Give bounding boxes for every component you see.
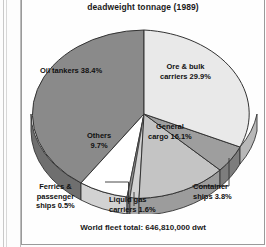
scan-page-edge-line: [3, 0, 4, 247]
slice-label-text: Oil tankers 38.4%: [40, 66, 102, 75]
slice-label-general-cargo: General cargo 16.1%: [148, 122, 192, 141]
slice-label-text: Liquid gas: [109, 195, 156, 205]
slice-label-text: General: [148, 122, 192, 132]
chart-title: deadweight tonnage (1989): [21, 2, 265, 12]
slice-label-text: carriers 29.9%: [160, 72, 211, 82]
slice-label-text: cargo 16.1%: [148, 132, 192, 142]
slice-label-text: ships 3.8%: [193, 192, 232, 202]
slice-label-container-ships: Container ships 3.8%: [193, 182, 232, 201]
slice-label-text: Ore & bulk: [160, 62, 211, 72]
slice-label-text: Ferries &: [36, 182, 75, 192]
slice-label-text: ships 0.5%: [36, 201, 75, 211]
slice-label-oil-tankers: Oil tankers 38.4%: [40, 66, 102, 76]
slice-label-ferries-passenger-ships: Ferries & passenger ships 0.5%: [36, 182, 75, 211]
chart-total-caption: World fleet total: 646,810,000 dwt: [21, 223, 265, 232]
slice-label-text: passenger: [36, 192, 75, 202]
pie-chart-figure: deadweight tonnage (1989): [0, 0, 266, 247]
slice-label-text: Container: [193, 182, 232, 192]
pie-top-face: [32, 30, 249, 198]
scan-page-edge-line: [6, 0, 7, 247]
slice-label-liquid-gas-carriers: Liquid gas carriers 1.6%: [109, 195, 156, 214]
slice-label-text: Others: [87, 131, 111, 141]
slice-label-text: carriers 1.6%: [109, 205, 156, 215]
slice-label-text: 9.7%: [87, 141, 111, 151]
slice-label-ore-bulk-carriers: Ore & bulk carriers 29.9%: [160, 62, 211, 81]
slice-label-others: Others 9.7%: [87, 131, 111, 150]
